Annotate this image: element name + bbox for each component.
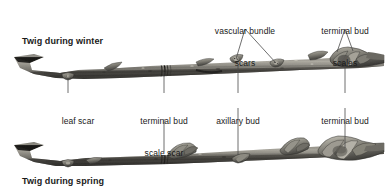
heading-twig-during-winter: Twig during winter — [22, 36, 103, 47]
label-axillary-bud: axillary bud — [216, 95, 260, 148]
label-line-1: terminal bud — [321, 116, 368, 127]
figure-canvas: vascular bundle scars terminal bud scale… — [0, 0, 389, 191]
label-vascular-bundle-scars: vascular bundle scars — [215, 5, 275, 89]
label-line-1: axillary bud — [216, 116, 260, 127]
heading-twig-during-spring: Twig during spring — [22, 176, 104, 187]
label-line-1: leaf scar — [62, 116, 95, 127]
label-leaf-scar: leaf scar — [62, 95, 95, 148]
label-terminal-bud-scale-scar: terminal bud scale scar — [140, 95, 187, 179]
label-line-2: scale scar — [140, 148, 187, 159]
label-line-1: terminal bud — [321, 26, 368, 37]
label-line-1: terminal bud — [140, 116, 187, 127]
label-line-2: scars — [215, 58, 275, 69]
label-terminal-bud: terminal bud — [321, 95, 368, 148]
label-line-2: scales — [321, 58, 368, 69]
label-line-1: vascular bundle — [215, 26, 275, 37]
label-terminal-bud-scales: terminal bud scales — [321, 5, 368, 89]
